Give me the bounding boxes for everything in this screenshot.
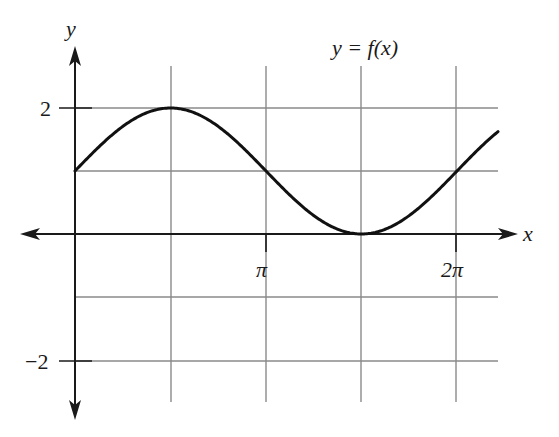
x-axis-label: x [522, 221, 533, 246]
axes [28, 58, 510, 408]
y-tick-label-2: 2 [40, 96, 51, 121]
x-tick-label-pi: π [256, 257, 268, 282]
y-axis-label: y [64, 16, 76, 41]
x-tick-label-2pi: 2π [441, 257, 464, 282]
y-tick-label-neg2: −2 [25, 349, 48, 374]
chart: y x y = f(x) 2 −2 π 2π [0, 0, 559, 437]
function-title: y = f(x) [330, 35, 398, 60]
